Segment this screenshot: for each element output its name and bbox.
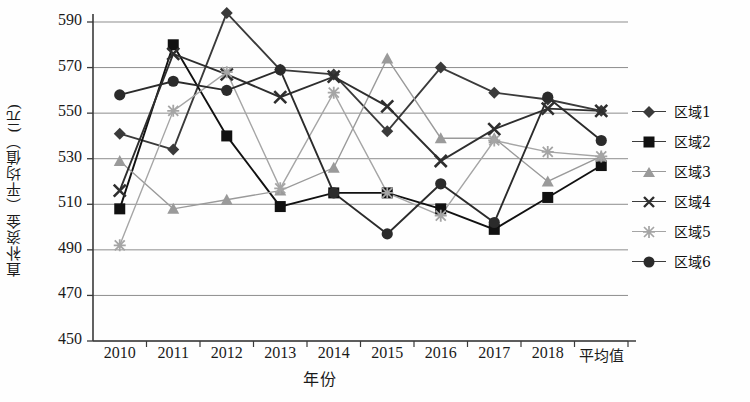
y-axis-title: 直补资金（平均值）(元) — [0, 40, 28, 340]
series-区域2 — [120, 45, 602, 230]
cross-marker-icon — [114, 185, 126, 197]
circle-marker-icon — [489, 217, 500, 228]
legend-label: 区域1 — [674, 101, 711, 121]
square-marker-icon — [221, 130, 232, 141]
diamond-marker-icon — [114, 128, 126, 140]
star-marker-icon — [274, 182, 286, 194]
circle-marker-icon — [168, 76, 179, 87]
chart-figure: 直补资金（平均值）(元) 年份 区域1 区域2 区域3 区域4 — [0, 0, 750, 402]
star-marker-icon — [381, 187, 393, 199]
circle-marker-icon — [275, 64, 286, 75]
legend-line — [632, 201, 666, 202]
legend-line — [632, 231, 666, 232]
circle-marker-icon — [642, 255, 656, 269]
x-axis-tick-label: 平均值 — [570, 344, 632, 365]
star-marker-icon — [167, 105, 179, 117]
legend-label: 区域3 — [674, 161, 711, 181]
legend-item[interactable]: 区域4 — [632, 186, 750, 216]
y-axis-tick-label: 490 — [30, 239, 82, 257]
x-axis-title: 年份 — [0, 366, 640, 390]
circle-marker-icon — [542, 92, 553, 103]
y-axis-tick-label: 510 — [30, 193, 82, 211]
triangle-marker-icon — [542, 176, 554, 187]
star-marker-icon — [435, 210, 447, 222]
legend-label: 区域6 — [674, 251, 711, 271]
y-axis-tick-label: 470 — [30, 284, 82, 302]
star-marker-icon — [542, 146, 554, 158]
star-marker-icon — [328, 87, 340, 99]
cross-marker-icon — [642, 195, 656, 209]
star-marker-icon — [642, 225, 656, 239]
legend-item[interactable]: 区域2 — [632, 126, 750, 156]
diamond-marker-icon — [642, 105, 656, 119]
square-marker-icon — [114, 203, 125, 214]
y-axis-tick-label: 570 — [30, 57, 82, 75]
circle-marker-icon — [435, 178, 446, 189]
legend-line — [632, 171, 666, 172]
legend-label: 区域5 — [674, 221, 711, 241]
legend-item[interactable]: 区域1 — [632, 96, 750, 126]
legend-item[interactable]: 区域5 — [632, 216, 750, 246]
chart-legend: 区域1 区域2 区域3 区域4 区域5 — [632, 96, 750, 276]
y-axis-tick-label: 550 — [30, 102, 82, 120]
star-marker-icon — [114, 239, 126, 251]
cross-marker-icon — [274, 91, 286, 103]
circle-marker-icon — [382, 228, 393, 239]
circle-marker-icon — [328, 187, 339, 198]
square-marker-icon — [275, 201, 286, 212]
circle-marker-icon — [596, 135, 607, 146]
legend-line — [632, 111, 666, 112]
triangle-marker-icon — [642, 165, 656, 179]
diamond-marker-icon — [488, 87, 500, 99]
series-区域4 — [120, 54, 602, 191]
triangle-marker-icon — [381, 52, 393, 63]
legend-item[interactable]: 区域6 — [632, 246, 750, 276]
circle-marker-icon — [221, 85, 232, 96]
series-区域3 — [120, 58, 602, 208]
triangle-marker-icon — [114, 155, 126, 166]
triangle-marker-icon — [328, 162, 340, 173]
legend-line — [632, 141, 666, 142]
diamond-marker-icon — [167, 144, 179, 156]
y-axis-tick-label: 450 — [30, 330, 82, 348]
cross-marker-icon — [435, 155, 447, 167]
legend-item[interactable]: 区域3 — [632, 156, 750, 186]
circle-marker-icon — [114, 89, 125, 100]
series-区域1 — [120, 13, 602, 150]
y-axis-tick-label: 530 — [30, 148, 82, 166]
y-axis-tick-label: 590 — [30, 11, 82, 29]
star-marker-icon — [595, 150, 607, 162]
legend-line — [632, 261, 666, 262]
legend-label: 区域4 — [674, 191, 711, 211]
square-marker-icon — [642, 135, 656, 149]
legend-label: 区域2 — [674, 131, 711, 151]
star-marker-icon — [488, 134, 500, 146]
square-marker-icon — [542, 192, 553, 203]
cross-marker-icon — [381, 100, 393, 112]
star-marker-icon — [221, 66, 233, 78]
